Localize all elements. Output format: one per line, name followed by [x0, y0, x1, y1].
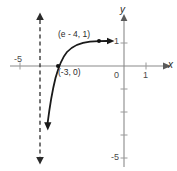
y-axis	[121, 14, 128, 167]
origin-label: 0	[114, 71, 119, 80]
vertical-asymptote	[36, 13, 44, 165]
graph-canvas	[0, 0, 177, 171]
graph-figure: -5 1 0 1 -5 x y (e - 4, 1) (-3, 0)	[0, 0, 177, 171]
y-tick-label-minus-5: -5	[111, 153, 119, 162]
point-label-minus-3-0: (-3, 0)	[58, 68, 81, 77]
y-axis-label: y	[120, 5, 125, 15]
x-axis	[10, 63, 171, 70]
point-label-e-minus-4: (e - 4, 1)	[58, 30, 90, 39]
y-tick-label-1: 1	[114, 37, 119, 46]
x-axis-label: x	[168, 60, 173, 70]
logarithmic-curve	[44, 38, 114, 131]
x-tick-label-minus-5: -5	[14, 55, 22, 64]
x-tick-label-1: 1	[143, 71, 148, 80]
